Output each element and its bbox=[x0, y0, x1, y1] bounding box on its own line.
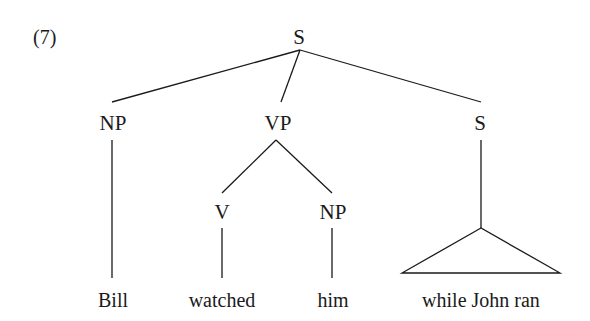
node-root-s: S bbox=[293, 25, 305, 49]
example-number: (7) bbox=[33, 26, 56, 49]
leaf-bill: Bill bbox=[98, 289, 128, 311]
triangle-constituent bbox=[402, 228, 560, 273]
node-np-object: NP bbox=[320, 200, 347, 224]
leaf-him: him bbox=[317, 289, 349, 311]
node-np-subject: NP bbox=[100, 111, 127, 135]
syntax-tree: (7) S NP VP S V NP Bill watched him whil… bbox=[0, 0, 590, 321]
node-v: V bbox=[214, 200, 229, 224]
leaf-while-john-ran: while John ran bbox=[422, 289, 540, 311]
edge-vp-v bbox=[222, 140, 276, 193]
edge-s-np bbox=[112, 50, 300, 102]
leaf-watched: watched bbox=[189, 289, 256, 311]
node-s-adjunct: S bbox=[474, 111, 486, 135]
edge-s-vp bbox=[281, 50, 300, 102]
edge-vp-np bbox=[276, 140, 332, 193]
edge-s-s bbox=[300, 50, 481, 102]
node-vp: VP bbox=[265, 111, 292, 135]
